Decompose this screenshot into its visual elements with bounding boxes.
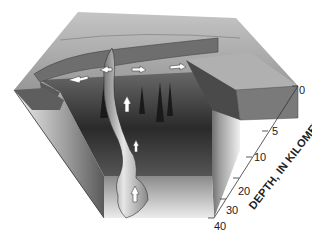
depth-tick-0: 0 <box>299 84 305 96</box>
right-block-front <box>236 86 298 120</box>
depth-tick-10: 10 <box>254 151 266 163</box>
depth-tick-30: 30 <box>226 204 238 216</box>
depth-tick-40: 40 <box>214 220 226 232</box>
depth-tick-20: 20 <box>238 185 250 197</box>
depth-tick-5: 5 <box>272 125 278 137</box>
block-diagram <box>0 0 312 252</box>
cavity-right-wall <box>212 104 240 218</box>
